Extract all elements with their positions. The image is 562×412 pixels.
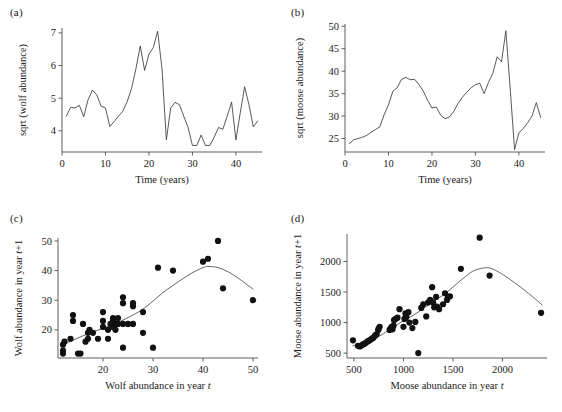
- svg-text:45: 45: [329, 43, 340, 54]
- svg-text:1000: 1000: [393, 364, 414, 375]
- svg-text:50: 50: [329, 21, 340, 32]
- data-point: [70, 312, 76, 318]
- svg-text:40: 40: [329, 66, 340, 77]
- data-point: [538, 310, 544, 316]
- svg-text:500: 500: [325, 348, 341, 359]
- data-point: [90, 330, 96, 336]
- data-point: [112, 327, 118, 333]
- data-point: [100, 318, 106, 324]
- panel-d-plot: 500100015002000500100015002000Moose abun…: [281, 206, 562, 412]
- data-point: [405, 309, 411, 315]
- data-point: [436, 306, 442, 312]
- data-point: [215, 238, 221, 244]
- data-point: [61, 339, 67, 345]
- svg-text:30: 30: [42, 295, 53, 306]
- data-point: [85, 336, 91, 342]
- panel-b-plot: 010203040253035404550Time (years)sqrt (m…: [281, 0, 562, 206]
- data-point: [220, 285, 226, 291]
- data-point: [477, 235, 483, 241]
- data-point: [77, 350, 83, 356]
- svg-text:4: 4: [51, 125, 57, 136]
- svg-text:2000: 2000: [492, 364, 513, 375]
- svg-text:20: 20: [144, 158, 155, 169]
- svg-text:20: 20: [98, 364, 109, 375]
- data-point: [250, 297, 256, 303]
- data-point: [412, 319, 418, 325]
- svg-text:0: 0: [59, 158, 64, 169]
- data-point: [433, 294, 439, 300]
- data-point: [120, 345, 126, 351]
- svg-text:40: 40: [42, 265, 53, 276]
- data-point: [100, 309, 106, 315]
- svg-text:1500: 1500: [442, 364, 463, 375]
- data-point: [447, 293, 453, 299]
- data-point: [120, 300, 126, 306]
- svg-text:50: 50: [42, 236, 53, 247]
- data-point: [396, 306, 402, 312]
- data-point: [150, 345, 156, 351]
- svg-text:50: 50: [248, 364, 259, 375]
- y-axis-title: sqrt (moose abundance): [294, 37, 306, 138]
- data-point: [205, 256, 211, 262]
- data-point: [170, 267, 176, 273]
- svg-text:10: 10: [100, 158, 111, 169]
- data-point: [140, 309, 146, 315]
- svg-text:10: 10: [383, 158, 394, 169]
- data-point: [140, 330, 146, 336]
- svg-text:5: 5: [51, 93, 56, 104]
- svg-text:7: 7: [51, 27, 56, 38]
- x-axis-title: Wolf abundance in year t: [105, 380, 211, 391]
- svg-text:1000: 1000: [320, 317, 341, 328]
- data-series-line: [66, 31, 257, 145]
- data-point: [105, 336, 111, 342]
- svg-text:40: 40: [231, 158, 242, 169]
- panel-c: (c) 2030405020304050Wolf abundance in ye…: [0, 206, 281, 412]
- figure-container: (a) 0102030404567Time (years)sqrt (wolf …: [0, 0, 562, 412]
- svg-text:2000: 2000: [320, 256, 341, 267]
- panel-a-plot: 0102030404567Time (years)sqrt (wolf abun…: [0, 0, 281, 206]
- x-axis-title: Time (years): [135, 174, 189, 186]
- svg-text:35: 35: [329, 88, 340, 99]
- data-point: [95, 336, 101, 342]
- svg-text:30: 30: [187, 158, 198, 169]
- data-point: [115, 315, 121, 321]
- svg-text:25: 25: [329, 133, 340, 144]
- data-point: [415, 350, 421, 356]
- svg-text:30: 30: [329, 111, 340, 122]
- svg-text:30: 30: [148, 364, 159, 375]
- svg-text:40: 40: [514, 158, 525, 169]
- data-point: [400, 324, 406, 330]
- data-point: [67, 336, 73, 342]
- data-series-line: [349, 31, 540, 150]
- svg-text:40: 40: [198, 364, 209, 375]
- data-point: [350, 337, 356, 343]
- data-point: [80, 321, 86, 327]
- x-axis-title: Time (years): [418, 174, 472, 186]
- data-point: [70, 318, 76, 324]
- data-point: [423, 313, 429, 319]
- data-point: [390, 323, 396, 329]
- data-point: [406, 319, 412, 325]
- data-point: [486, 272, 492, 278]
- panel-b: (b) 010203040253035404550Time (years)sqr…: [281, 0, 562, 206]
- svg-text:1500: 1500: [320, 287, 341, 298]
- y-axis-title: sqrt (wolf abundance): [17, 43, 29, 136]
- data-point: [409, 325, 415, 331]
- data-point: [130, 300, 136, 306]
- y-axis-title: Moose abundance in year t+1: [292, 234, 303, 358]
- svg-text:30: 30: [470, 158, 481, 169]
- panel-c-plot: 2030405020304050Wolf abundance in year t…: [0, 206, 281, 412]
- x-axis-title: Moose abundance in year t: [390, 380, 504, 391]
- smoothing-curve: [353, 268, 542, 346]
- panel-a: (a) 0102030404567Time (years)sqrt (wolf …: [0, 0, 281, 206]
- data-point: [429, 284, 435, 290]
- data-point: [130, 321, 136, 327]
- svg-text:6: 6: [51, 60, 56, 71]
- data-point: [60, 347, 66, 353]
- y-axis-title: Wolf abundance in year t+1: [13, 240, 24, 356]
- svg-text:0: 0: [342, 158, 347, 169]
- svg-text:20: 20: [427, 158, 438, 169]
- svg-text:20: 20: [42, 324, 53, 335]
- data-point: [155, 265, 161, 271]
- data-point: [377, 324, 383, 330]
